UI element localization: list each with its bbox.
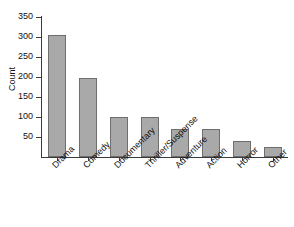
x-tick-label: Other — [266, 147, 289, 170]
x-axis-labels: DramaComedyDocumentaryThriller/SuspenseA… — [0, 0, 294, 227]
x-tick-label: Comedy — [81, 139, 112, 170]
x-tick-label: Thriller/Suspense — [143, 113, 200, 170]
x-tick-label: Horror — [235, 145, 260, 170]
bar-chart: Count 50100150200250300350 DramaComedyDo… — [0, 0, 294, 227]
x-tick-label: Drama — [50, 144, 76, 170]
x-tick-label: Action — [204, 145, 229, 170]
